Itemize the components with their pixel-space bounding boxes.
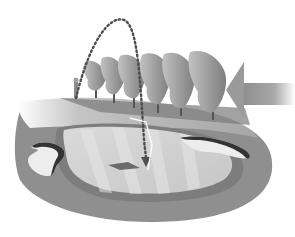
golf-wind-illustration bbox=[0, 0, 295, 237]
illustration-canvas bbox=[0, 0, 295, 237]
